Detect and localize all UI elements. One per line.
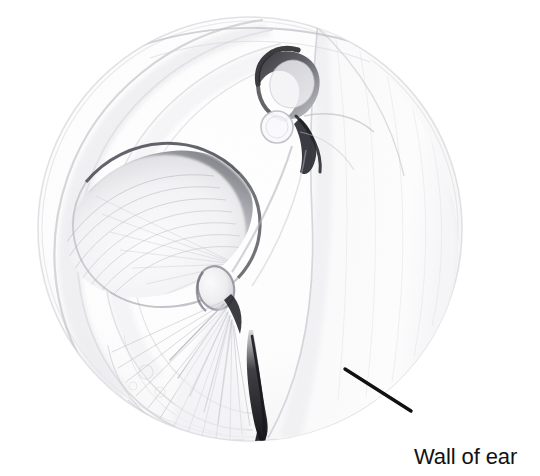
paper-grain	[38, 17, 462, 441]
figure-root: Wall of ear canal	[0, 0, 540, 476]
annotation-label: Wall of ear canal	[414, 392, 540, 476]
annotation-label-line-1: Wall of ear	[414, 444, 540, 470]
